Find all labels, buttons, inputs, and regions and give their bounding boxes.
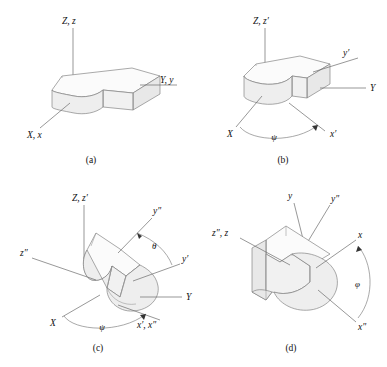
- figure-root: Z, z Y, y X, x (a) Z, z′: [0, 0, 387, 367]
- axis-label-X: X: [226, 129, 234, 139]
- axis-label-Z-z: Z, z: [62, 16, 76, 26]
- panel-caption-c: (c): [93, 343, 104, 354]
- rigid-body-c: [83, 233, 158, 311]
- axis-label-yprime: y′: [342, 48, 350, 58]
- axis-label-X-x: X, x: [26, 130, 43, 140]
- body-bottom-face: [252, 290, 272, 300]
- panel-c: Z, z′ y″ y′ θ z″: [19, 193, 193, 354]
- angle-label-phi: φ: [355, 279, 360, 289]
- angle-label-psi: ψ: [271, 132, 277, 142]
- rigid-body-b: [244, 56, 330, 104]
- panel-caption-d: (d): [285, 343, 296, 354]
- body-front-face: [103, 90, 133, 110]
- axis-label-X: X: [49, 318, 57, 328]
- axis-label-ydblprime: y″: [330, 194, 340, 204]
- axis-line-ydblprime: [118, 218, 152, 253]
- panel-a: Z, z Y, y X, x (a): [26, 16, 177, 166]
- axis-label-x: x: [357, 230, 363, 240]
- axis-label-zdblprime: z″: [19, 248, 29, 258]
- angle-arc-psi: [64, 314, 146, 328]
- axis-line-xprime: [289, 103, 325, 131]
- axis-label-yprime: y′: [181, 254, 189, 264]
- angle-arc-psi: [240, 125, 318, 138]
- axis-label-y: y: [287, 191, 293, 201]
- panel-caption-b: (b): [277, 155, 288, 166]
- rigid-body-d: [252, 226, 337, 310]
- axis-label-Y: Y: [186, 292, 193, 302]
- angle-label-psi: ψ: [99, 322, 105, 332]
- panel-caption-a: (a): [86, 155, 97, 166]
- panel-b: Z, z′ y′ Y X x′ ψ (b): [226, 16, 377, 166]
- axis-label-xprime: x′: [329, 129, 337, 139]
- axis-label-ydblprime: y″: [152, 206, 162, 216]
- axis-label-Z-zprime: Z, z′: [253, 16, 270, 26]
- angle-label-theta: θ: [152, 241, 157, 251]
- axis-label-Y: Y: [370, 83, 377, 93]
- axis-line-X: [62, 295, 100, 317]
- euler-angle-figure: Z, z Y, y X, x (a) Z, z′: [0, 0, 387, 367]
- axis-label-Y-y: Y, y: [160, 75, 174, 85]
- axis-label-xdblprime: x″: [357, 322, 367, 332]
- panel-d: y y″ z″, z x x″: [211, 191, 370, 354]
- rigid-body-a: [52, 68, 160, 114]
- angle-arrow-psi: [312, 125, 318, 131]
- axis-label-Z-zprime: Z, z′: [72, 193, 89, 203]
- body-front-face: [292, 76, 307, 98]
- axis-label-zdblprime-z: z″, z: [211, 228, 228, 238]
- axis-label-xprime-xdblprime: x′, x″: [136, 320, 157, 330]
- axis-line-xdblprime: [318, 290, 356, 322]
